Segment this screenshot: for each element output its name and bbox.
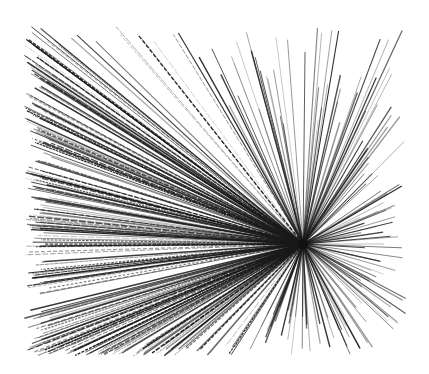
burst-center xyxy=(298,239,308,249)
radial-line-burst xyxy=(0,0,429,374)
